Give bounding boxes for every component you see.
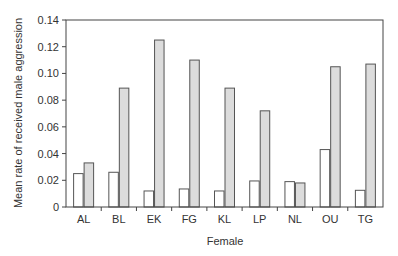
x-tick-label: OU [322, 213, 339, 225]
bar-FG-s2 [190, 60, 200, 207]
bar-AL-s1 [74, 174, 84, 207]
y-tick-label: 0 [53, 201, 59, 213]
x-tick-label: AL [77, 213, 90, 225]
x-axis-ticks: ALBLEKFGKLLPNLOUTG [77, 207, 373, 225]
bar-EK-s2 [155, 40, 165, 207]
bar-BL-s1 [109, 172, 119, 207]
bar-OU-s2 [331, 67, 341, 207]
bar-LP-s1 [250, 181, 260, 207]
y-tick-label: 0.14 [38, 14, 59, 26]
x-tick-label: NL [288, 213, 302, 225]
y-axis-ticks: 00.020.040.060.080.100.120.14 [38, 14, 66, 213]
x-tick-label: FG [182, 213, 197, 225]
x-axis-title: Female [207, 235, 244, 247]
y-tick-label: 0.02 [38, 174, 59, 186]
y-tick-label: 0.04 [38, 148, 59, 160]
bar-chart: 00.020.040.060.080.100.120.14 ALBLEKFGKL… [0, 0, 398, 256]
x-tick-label: EK [147, 213, 162, 225]
x-tick-label: TG [358, 213, 373, 225]
y-tick-label: 0.08 [38, 94, 59, 106]
bar-NL-s1 [285, 182, 295, 207]
bar-BL-s2 [119, 88, 129, 207]
y-tick-label: 0.10 [38, 67, 59, 79]
bar-series [74, 40, 376, 207]
bar-NL-s2 [295, 183, 305, 207]
x-tick-label: LP [253, 213, 266, 225]
bar-AL-s2 [84, 163, 94, 207]
x-tick-label: BL [112, 213, 125, 225]
bar-FG-s1 [179, 189, 189, 207]
y-tick-label: 0.06 [38, 121, 59, 133]
bar-OU-s1 [320, 150, 330, 207]
bar-KL-s1 [215, 191, 225, 207]
bar-TG-s1 [355, 190, 365, 207]
bar-LP-s2 [260, 111, 270, 207]
bar-TG-s2 [366, 64, 376, 207]
bar-EK-s1 [144, 191, 154, 207]
bar-KL-s2 [225, 88, 235, 207]
x-tick-label: KL [218, 213, 231, 225]
y-tick-label: 0.12 [38, 41, 59, 53]
y-axis-title: Mean rate of received male aggression [12, 18, 24, 208]
